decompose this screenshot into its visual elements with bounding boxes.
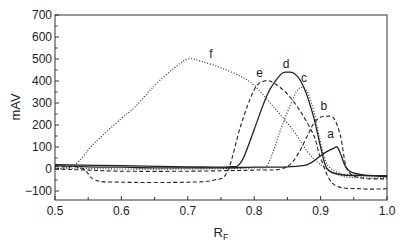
x-tick-label: 0.7 (179, 204, 196, 218)
x-tick-label: 0.6 (113, 204, 130, 218)
x-tick-label: 0.9 (312, 204, 329, 218)
y-axis-label: mAV (8, 93, 23, 121)
x-tick-label: 1.0 (379, 204, 396, 218)
x-tick-label: 0.5 (47, 204, 64, 218)
x-axis-label-main: R (214, 225, 223, 240)
curve-label-e: e (256, 66, 263, 80)
y-tick-label: 500 (32, 52, 52, 66)
y-axis: −1000100200300400500600700 (25, 8, 59, 198)
plot-area (55, 15, 387, 200)
curve-label-b: b (321, 99, 328, 113)
y-tick-label: 200 (32, 118, 52, 132)
curve-label-c: c (301, 71, 307, 85)
curve-label-d: d (283, 57, 290, 71)
x-axis-label: RF (214, 225, 229, 242)
y-tick-label: 600 (32, 30, 52, 44)
y-tick-label: 700 (32, 8, 52, 22)
y-tick-label: 400 (32, 74, 52, 88)
y-tick-label: 0 (45, 162, 52, 176)
y-tick-label: −100 (25, 184, 52, 198)
curve-label-a: a (327, 127, 334, 141)
y-tick-label: 100 (32, 140, 52, 154)
x-axis-label-subscript: F (223, 232, 229, 242)
x-tick-label: 0.8 (246, 204, 263, 218)
y-tick-label: 300 (32, 96, 52, 110)
chromatogram-chart: −1000100200300400500600700 0.50.60.70.80… (0, 0, 411, 245)
